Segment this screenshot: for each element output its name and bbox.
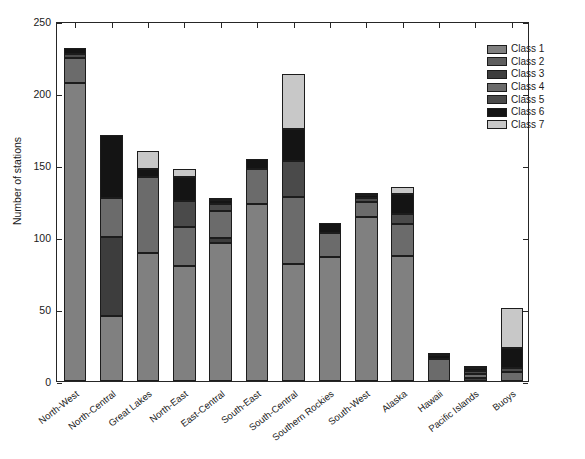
legend-label: Class 7 [511,120,544,130]
bar-segment[interactable] [173,177,196,201]
bar-segment[interactable] [64,58,87,82]
bar-segment[interactable] [100,198,123,237]
bar-segment[interactable] [209,238,232,242]
bar-segment[interactable] [173,266,196,381]
bar-segment[interactable] [100,135,123,198]
legend-swatch [487,95,507,104]
bar-segment[interactable] [282,74,305,129]
bar-segment[interactable] [391,224,414,256]
bar-segment[interactable] [209,211,232,238]
bar-segment[interactable] [428,355,451,359]
bar-segment[interactable] [64,83,87,381]
legend-label: Class 4 [511,82,544,92]
figure-canvas: Number of stations 050100150200250 North… [0,0,585,459]
bar-segment[interactable] [100,237,123,316]
bar-segment[interactable] [100,316,123,381]
plot-area [56,22,529,382]
y-tick-mark [57,239,62,240]
bar-segment[interactable] [319,233,342,257]
bar-segment[interactable] [137,177,160,253]
bar-segment[interactable] [209,204,232,211]
bar-segment[interactable] [501,348,524,368]
legend-item[interactable]: Class 3 [487,68,573,81]
legend-item[interactable]: Class 6 [487,106,573,119]
bar-segment[interactable] [246,159,269,169]
legend-label: Class 1 [511,44,544,54]
bar-stack[interactable] [319,21,342,381]
bar-segment[interactable] [464,378,487,381]
y-tick-label: 50 [0,304,51,316]
legend-swatch [487,108,507,117]
bar-segment[interactable] [64,54,87,58]
legend-swatch [487,83,507,92]
legend-label: Class 6 [511,107,544,117]
y-tick-mark [57,23,62,24]
bar-segment[interactable] [137,169,160,176]
bar-segment[interactable] [464,371,487,374]
legend: Class 1Class 2Class 3Class 4Class 5Class… [487,43,573,131]
bar-segment[interactable] [355,217,378,381]
legend-swatch [487,57,507,66]
bar-segment[interactable] [428,353,451,355]
legend-label: Class 5 [511,95,544,105]
legend-item[interactable]: Class 4 [487,81,573,94]
bar-segment[interactable] [501,368,524,372]
bar-segment[interactable] [282,161,305,197]
bar-stack[interactable] [282,21,305,381]
y-tick-mark [57,167,62,168]
bar-stack[interactable] [355,21,378,381]
bar-segment[interactable] [464,366,487,368]
bar-segment[interactable] [391,187,414,194]
legend-item[interactable]: Class 2 [487,56,573,69]
bar-segment[interactable] [355,198,378,202]
bar-segment[interactable] [209,198,232,200]
y-tick-label: 250 [0,16,51,28]
legend-item[interactable]: Class 5 [487,93,573,106]
bar-segment[interactable] [355,193,378,195]
bar-stack[interactable] [391,21,414,381]
bar-segment[interactable] [282,264,305,381]
bar-segment[interactable] [464,368,487,371]
bar-stack[interactable] [246,21,269,381]
legend-item[interactable]: Class 7 [487,119,573,132]
bar-segment[interactable] [428,359,451,381]
bar-segment[interactable] [137,253,160,381]
bar-stack[interactable] [137,21,160,381]
bar-segment[interactable] [246,204,269,381]
legend-label: Class 3 [511,69,544,79]
bar-segment[interactable] [64,48,87,54]
y-tick-mark [523,311,528,312]
bar-stack[interactable] [209,21,232,381]
bar-segment[interactable] [319,223,342,233]
bar-segment[interactable] [173,169,196,176]
legend-item[interactable]: Class 1 [487,43,573,56]
bar-stack[interactable] [173,21,196,381]
legend-swatch [487,70,507,79]
bar-stack[interactable] [464,21,487,381]
bar-segment[interactable] [209,243,232,381]
legend-label: Class 2 [511,57,544,67]
y-tick-mark [523,23,528,24]
bar-segment[interactable] [282,197,305,265]
bar-segment[interactable] [173,227,196,266]
bar-stack[interactable] [428,21,451,381]
bar-segment[interactable] [391,214,414,224]
bar-segment[interactable] [501,372,524,381]
y-tick-mark [523,239,528,240]
bar-stack[interactable] [64,21,87,381]
bar-segment[interactable] [501,308,524,348]
bar-segment[interactable] [246,169,269,204]
y-tick-mark [57,311,62,312]
bar-segment[interactable] [391,194,414,214]
bar-segment[interactable] [282,129,305,161]
y-tick-mark [57,95,62,96]
bar-segment[interactable] [319,257,342,381]
bar-stack[interactable] [100,21,123,381]
bar-segment[interactable] [355,195,378,198]
bar-segment[interactable] [355,202,378,216]
bar-segment[interactable] [464,374,487,378]
bar-segment[interactable] [137,151,160,170]
bar-segment[interactable] [209,200,232,204]
bar-segment[interactable] [173,201,196,227]
bar-segment[interactable] [391,256,414,381]
